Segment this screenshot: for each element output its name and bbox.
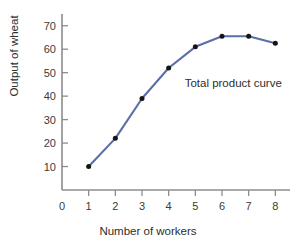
data-point	[86, 164, 91, 169]
y-axis-ticks	[62, 26, 68, 167]
y-tick-label: 60	[28, 44, 56, 55]
x-tick-label: 6	[219, 201, 225, 212]
x-tick-label: 1	[86, 201, 92, 212]
y-tick-label: 10	[28, 161, 56, 172]
x-tick-label: 8	[272, 201, 278, 212]
x-tick-label: 2	[112, 201, 118, 212]
data-point	[113, 136, 118, 141]
x-axis-ticks	[89, 190, 276, 196]
y-tick-label: 20	[28, 138, 56, 149]
x-tick-label: 0	[59, 201, 65, 212]
data-point	[166, 65, 171, 70]
axes	[62, 14, 290, 190]
data-point	[193, 44, 198, 49]
data-point-markers	[86, 34, 278, 169]
total-product-curve-chart: 10203040506070 012345678 Total product c…	[0, 0, 296, 243]
x-tick-label: 3	[139, 201, 145, 212]
x-tick-label: 4	[166, 201, 172, 212]
y-axis-title: Output of wheat	[8, 0, 20, 116]
y-tick-label: 50	[28, 67, 56, 78]
data-point	[140, 96, 145, 101]
x-tick-label: 7	[246, 201, 252, 212]
data-point	[273, 41, 278, 46]
series-annotation-label: Total product curve	[185, 77, 282, 89]
y-tick-label: 30	[28, 114, 56, 125]
x-axis-title: Number of workers	[0, 225, 296, 237]
data-point	[246, 34, 251, 39]
y-tick-label: 70	[28, 20, 56, 31]
x-tick-label: 5	[192, 201, 198, 212]
data-point	[220, 34, 225, 39]
y-tick-label: 40	[28, 91, 56, 102]
total-product-line	[89, 36, 276, 166]
